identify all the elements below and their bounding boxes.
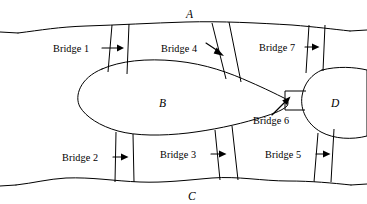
north-bank-edge-left-stub xyxy=(0,32,18,33)
bridge-4-pointer xyxy=(206,43,224,56)
region-label-b: B xyxy=(159,97,166,109)
bridge-1-pointer xyxy=(102,44,124,51)
south-bank-landmass xyxy=(0,178,367,186)
north-bank-edge-right-stub xyxy=(350,30,367,31)
bridge-3-arrow-head xyxy=(219,150,227,157)
konigsberg-bridges-figure: Bridge 1 Bridge 4 Bridge 7 Bridge 2 Brid… xyxy=(0,0,367,204)
bridge-7-rail-left xyxy=(306,25,309,73)
bridge-2-label: Bridge 2 xyxy=(62,152,98,163)
bridge-5-arrow-head xyxy=(323,150,331,157)
diagram-canvas: Bridge 1 Bridge 4 Bridge 7 Bridge 2 Brid… xyxy=(0,0,367,204)
bridge-4-rail-right xyxy=(229,22,241,82)
bridge-5-rail-right xyxy=(331,129,334,182)
bridge-1-label: Bridge 1 xyxy=(53,43,89,54)
north-bank-landmass xyxy=(0,22,367,33)
region-label-a: A xyxy=(185,8,194,20)
bridge-5-label: Bridge 5 xyxy=(265,149,301,160)
north-bank-edge xyxy=(18,22,350,33)
bridge-3-rail-right xyxy=(232,126,238,180)
region-label-c: C xyxy=(188,190,196,202)
bridge-3-pointer xyxy=(211,150,227,157)
bridge-5-rail-left xyxy=(314,133,318,182)
south-bank-edge xyxy=(16,178,351,185)
bridge-7-arrow-head xyxy=(312,43,320,50)
bridge-2-rail-right xyxy=(133,134,134,182)
bridge-6-label: Bridge 6 xyxy=(253,115,289,126)
south-bank-edge-right-stub xyxy=(351,184,367,185)
region-label-d: D xyxy=(330,97,340,109)
south-bank-edge-left-stub xyxy=(0,185,16,186)
bridge-4-label: Bridge 4 xyxy=(161,43,197,54)
bridge-7-rail-right xyxy=(323,25,325,71)
bridge-1-arrow-head xyxy=(117,44,124,51)
bridge-2-arrow-head xyxy=(121,153,129,160)
bridge-3-label: Bridge 3 xyxy=(160,149,196,160)
bridge-7-structure xyxy=(306,25,325,73)
bridge-7-label: Bridge 7 xyxy=(259,42,295,53)
bridge-5-pointer xyxy=(316,150,331,157)
bridge-3-structure xyxy=(215,126,238,180)
